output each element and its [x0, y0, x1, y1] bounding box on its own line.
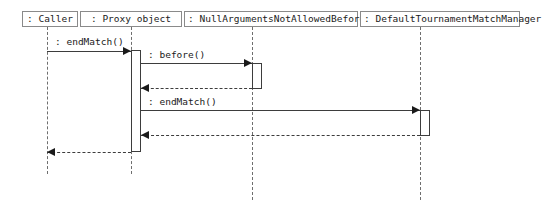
- participant-proxy[interactable]: : Proxy object: [80, 11, 182, 27]
- return-beforeadvice-proxy-line: [141, 88, 252, 89]
- return-proxy-caller-arrowhead: [47, 148, 55, 156]
- message-endmatch-caller-proxy-arrowhead: [123, 47, 131, 55]
- activation-proxy: [131, 50, 141, 152]
- message-endmatch-proxy-matchmanager-line: [141, 110, 420, 111]
- return-beforeadvice-proxy-arrowhead: [141, 84, 149, 92]
- message-endmatch-proxy-matchmanager-arrowhead: [412, 106, 420, 114]
- message-endmatch-caller-proxy-line: [47, 51, 131, 52]
- message-endmatch-caller-proxy-label: : endMatch(): [55, 36, 124, 47]
- return-matchmanager-proxy-line: [141, 135, 420, 136]
- participant-caller[interactable]: : Caller: [22, 11, 78, 27]
- return-proxy-caller-line: [47, 152, 131, 153]
- activation-matchmanager: [420, 110, 430, 136]
- activation-beforeadvice: [252, 63, 262, 89]
- lifeline-beforeadvice: [252, 27, 253, 200]
- message-before-proxy-beforeadvice-label: : before(): [148, 49, 205, 60]
- sequence-diagram-canvas: : endMatch(): before(): endMatch(): Call…: [0, 0, 543, 218]
- participant-matchmanager[interactable]: : DefaultTournamentMatchManager: [360, 11, 520, 27]
- message-endmatch-proxy-matchmanager-label: : endMatch(): [148, 96, 217, 107]
- return-matchmanager-proxy-arrowhead: [141, 131, 149, 139]
- message-before-proxy-beforeadvice-line: [141, 63, 252, 64]
- message-before-proxy-beforeadvice-arrowhead: [244, 59, 252, 67]
- participant-beforeadvice[interactable]: : NullArgumentsNotAllowedBeforeAdvice: [184, 11, 358, 27]
